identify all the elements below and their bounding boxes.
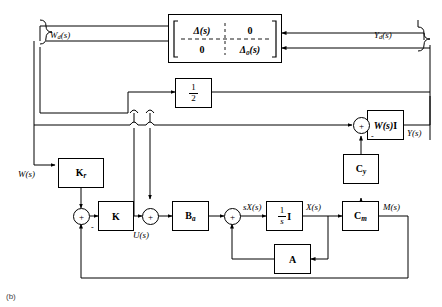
wsi-label: W(s)I — [374, 120, 397, 131]
signal-label-wd: Wd(s) — [50, 31, 70, 41]
signal-label-m: M(s) — [383, 203, 400, 212]
half-denominator: 2 — [189, 93, 198, 103]
signal-label-x: X(s) — [306, 203, 321, 212]
half-numerator: 1 — [189, 83, 198, 92]
cm-label: Cm — [354, 210, 367, 223]
cy-label: Cy — [356, 163, 366, 176]
cm-gain-block[interactable]: Cm — [342, 201, 379, 231]
kr-label: Kr — [76, 167, 87, 180]
k-label: K — [112, 211, 120, 222]
sum-control-junction[interactable]: + — [142, 208, 159, 225]
matrix-cell-12: 0 — [248, 25, 253, 36]
half-gain-fraction: 1 2 — [189, 83, 198, 102]
half-gain-block[interactable]: 1 2 — [175, 78, 212, 108]
integrator-block[interactable]: 1 s I — [266, 201, 303, 231]
k-gain-block[interactable]: K — [98, 201, 134, 231]
sum-output-junction[interactable]: + — [353, 117, 370, 134]
sum-output-symbol: + — [359, 121, 364, 131]
sum-state-symbol: + — [230, 212, 235, 222]
integrator-denominator: s — [278, 216, 286, 226]
sum-error-junction[interactable]: + — [73, 208, 90, 225]
signal-label-y: Y(s) — [407, 129, 422, 138]
matrix-cell-22: Δ0(s) — [239, 44, 260, 57]
signal-label-w: W(s) — [18, 170, 35, 179]
uncertainty-matrix-content: Δ(s) 0 0 Δ0(s) — [171, 17, 279, 61]
a-label: A — [289, 254, 296, 265]
ba-label: Ba — [185, 210, 195, 223]
integrator-fraction: 1 s — [278, 206, 287, 225]
sum-state-junction[interactable]: + — [224, 208, 241, 225]
sum-output-minus-sign: - — [371, 133, 374, 141]
cy-gain-block[interactable]: Cy — [343, 154, 379, 184]
signal-label-u: U(s) — [133, 231, 149, 240]
integrator-content: 1 s I — [278, 206, 291, 225]
sum-control-symbol: + — [148, 212, 153, 222]
integrator-numerator: 1 — [278, 206, 287, 215]
kr-gain-block[interactable]: Kr — [58, 158, 104, 188]
figure-caption: (b) — [6, 292, 16, 301]
matrix-cell-11: Δ(s) — [193, 25, 211, 37]
integrator-identity: I — [287, 211, 291, 222]
uncertainty-matrix-block[interactable]: Δ(s) 0 0 Δ0(s) — [168, 14, 282, 63]
signal-label-yd: Yd(s) — [374, 31, 392, 41]
a-state-matrix-block[interactable]: A — [274, 244, 311, 274]
matrix-cell-21: 0 — [200, 44, 205, 55]
sum-error-minus-sign: - — [91, 224, 94, 232]
sum-error-symbol: + — [79, 212, 84, 222]
ba-gain-block[interactable]: Ba — [172, 201, 209, 231]
signal-label-sx: sX(s) — [243, 203, 262, 212]
